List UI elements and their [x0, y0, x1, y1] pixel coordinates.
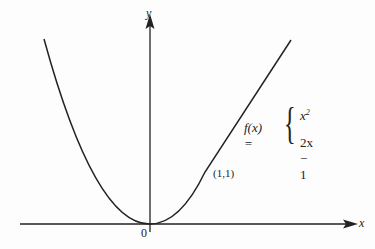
brace-icon: {: [284, 102, 296, 146]
point-label: (1,1): [213, 167, 234, 179]
graph-canvas: [0, 0, 375, 249]
case-1-expr: x2: [300, 108, 310, 124]
function-name: f(x) =: [244, 120, 262, 152]
y-axis-label: y: [146, 6, 151, 21]
x-axis-label: x: [359, 216, 364, 231]
origin-label: 0: [141, 226, 147, 241]
case-2-expr: 2x − 1: [300, 135, 313, 183]
